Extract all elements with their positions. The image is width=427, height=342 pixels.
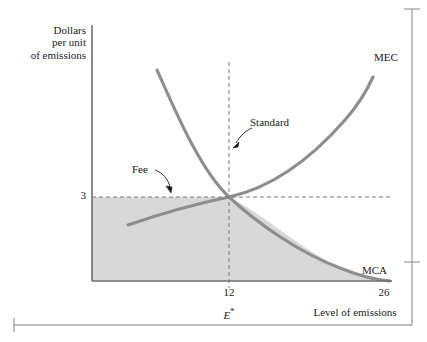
optimum-level-label: E* [214, 306, 244, 321]
figure-root: Dollars per unit of emissions 3 12 26 E*… [0, 0, 427, 342]
curve-label-mec: MEC [374, 51, 398, 63]
x-axis-caption: Level of emissions [300, 306, 410, 318]
curve-label-mca: MCA [362, 264, 387, 276]
y-axis-caption: Dollars per unit of emissions [16, 24, 86, 61]
x-tick-label-12: 12 [214, 286, 244, 298]
optimum-level-star: * [230, 306, 235, 316]
standard-arrow [236, 128, 252, 143]
annotation-label-standard: Standard [250, 116, 289, 128]
y-tick-label-3: 3 [70, 189, 86, 201]
fee-arrow [155, 170, 170, 187]
annotation-label-fee: Fee [132, 163, 148, 175]
x-tick-label-26: 26 [369, 286, 399, 298]
fee-arrowhead-icon [166, 186, 172, 193]
